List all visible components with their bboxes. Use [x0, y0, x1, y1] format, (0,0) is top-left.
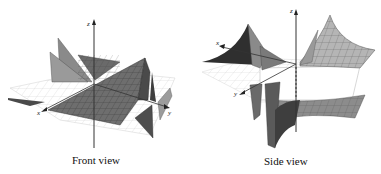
x-axis-label: x: [36, 109, 41, 117]
side-view-plot: z x y: [190, 0, 381, 152]
surface-back-fins: [50, 38, 120, 82]
x-axis-label: x: [215, 39, 220, 47]
side-view-caption: Side view: [264, 155, 308, 167]
surface-left-cusp: [202, 24, 286, 70]
front-view-plot: z x y: [0, 0, 190, 150]
front-view-panel: z x y Front view: [0, 0, 190, 174]
y-axis-label: y: [233, 90, 238, 98]
z-axis-label: z: [86, 20, 90, 28]
front-view-caption: Front view: [72, 154, 120, 166]
side-view-panel: z x y Side view: [190, 0, 381, 174]
z-axis-label: z: [289, 7, 293, 15]
y-axis-label: y: [167, 109, 172, 117]
surface-right-cusp: [300, 15, 375, 68]
